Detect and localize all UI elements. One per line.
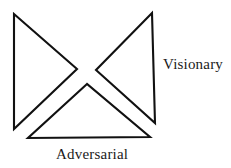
label-adversarial: Adversarial bbox=[56, 147, 128, 162]
label-visionary: Visionary bbox=[163, 57, 223, 72]
right-triangle bbox=[96, 13, 155, 123]
bottom-triangle bbox=[28, 84, 150, 138]
left-triangle bbox=[14, 14, 77, 129]
triangles-figure bbox=[0, 0, 231, 168]
diagram-canvas: Visionary Adversarial bbox=[0, 0, 231, 168]
